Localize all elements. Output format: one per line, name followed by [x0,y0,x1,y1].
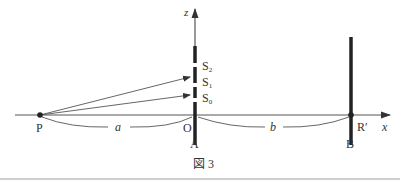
bottom-divider [0,178,400,180]
point-r-prime [348,112,354,118]
point-r-label: R′ [357,120,368,134]
distance-a-label: a [115,120,121,134]
slit-s2-label: S2 [202,59,213,74]
ray-to-s1 [40,77,190,115]
x-axis-label: x [381,120,388,134]
double-slit-diagram: z x S2 S1 S0 P O R′ a b A B 図 3 [0,0,400,190]
slit-s0-label: S0 [202,91,213,106]
z-axis-label: z [183,6,189,18]
point-p-label: P [36,121,43,135]
source-point-p [37,112,43,118]
ray-to-s0 [40,95,190,115]
figure-caption: 図 3 [193,157,214,171]
screen-b-label: B [346,137,354,151]
distance-b-label: b [270,120,276,134]
screen-a-label: A [190,137,199,151]
origin-label: O [183,121,192,135]
slit-s1-label: S1 [202,75,213,90]
